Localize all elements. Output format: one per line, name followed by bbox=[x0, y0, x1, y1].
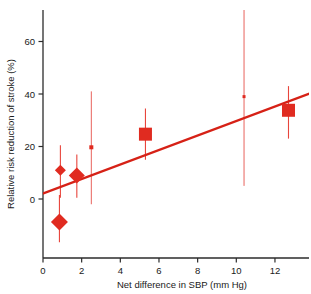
y-axis-tick-label: 40 bbox=[24, 89, 35, 100]
x-axis-tick-label: 8 bbox=[195, 265, 200, 276]
x-axis-tick-label: 10 bbox=[231, 265, 242, 276]
regression-line bbox=[41, 93, 310, 194]
x-axis-tick-label: 2 bbox=[79, 265, 84, 276]
data-point-diamond[interactable] bbox=[51, 214, 68, 231]
data-point-square[interactable] bbox=[243, 95, 246, 98]
x-axis-tick-label: 6 bbox=[156, 265, 161, 276]
y-axis-tick-label: 60 bbox=[24, 36, 35, 47]
x-axis-title: Net difference in SBP (mm Hg) bbox=[117, 279, 247, 290]
plot-area bbox=[41, 10, 310, 242]
scatter-plot-svg: 0204060024681012Net difference in SBP (m… bbox=[0, 0, 311, 294]
x-axis-tick-label: 12 bbox=[270, 265, 281, 276]
data-point-diamond[interactable] bbox=[55, 165, 66, 176]
y-axis-tick-label: 0 bbox=[30, 194, 35, 205]
data-point-square[interactable] bbox=[89, 145, 93, 149]
x-axis-tick-label: 0 bbox=[40, 265, 45, 276]
data-point-square[interactable] bbox=[139, 128, 152, 141]
x-axis-tick-label: 4 bbox=[118, 265, 123, 276]
y-axis-tick-label: 20 bbox=[24, 141, 35, 152]
chart-figure: 0204060024681012Net difference in SBP (m… bbox=[0, 0, 311, 294]
data-point-diamond[interactable] bbox=[69, 167, 85, 183]
y-axis-title: Relative risk reduction of stroke (%) bbox=[5, 59, 16, 209]
data-point-square[interactable] bbox=[282, 104, 295, 117]
